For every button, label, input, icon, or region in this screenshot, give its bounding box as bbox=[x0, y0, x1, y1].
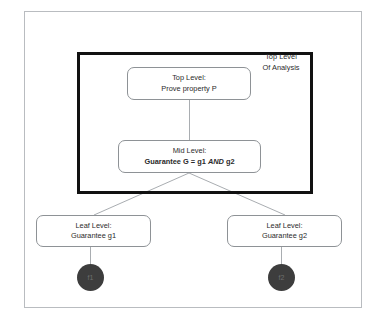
node-top-level-title: Top Level: bbox=[172, 73, 206, 83]
node-leaf-level-g2-title: Leaf Level: bbox=[266, 221, 302, 231]
node-mid-level-body-operator: AND bbox=[208, 157, 224, 166]
node-leaf-level-g2[interactable]: Leaf Level: Guarantee g2 bbox=[227, 215, 342, 247]
caption-line-2: Of Analysis bbox=[253, 63, 309, 74]
node-mid-level[interactable]: Mid Level: Guarantee G = g1 AND g2 bbox=[118, 140, 261, 173]
terminal-node-f1-label: f1 bbox=[87, 274, 93, 281]
node-top-level[interactable]: Top Level: Prove property P bbox=[127, 67, 251, 100]
caption-line-1: Top Level bbox=[253, 52, 309, 63]
node-mid-level-body-prefix: Guarantee G = g1 bbox=[144, 157, 207, 166]
node-mid-level-body: Guarantee G = g1 AND g2 bbox=[144, 157, 234, 167]
diagram-canvas: Top Level Of Analysis Top Level: Prove p… bbox=[0, 0, 381, 333]
top-level-of-analysis-caption: Top Level Of Analysis bbox=[253, 52, 309, 73]
node-leaf-level-g1-body: Guarantee g1 bbox=[71, 231, 116, 241]
connector-leaf1-to-terminal bbox=[90, 247, 91, 264]
node-leaf-level-g2-body: Guarantee g2 bbox=[262, 231, 307, 241]
node-leaf-level-g1-title: Leaf Level: bbox=[75, 221, 111, 231]
node-mid-level-title: Mid Level: bbox=[173, 146, 207, 156]
node-leaf-level-g1[interactable]: Leaf Level: Guarantee g1 bbox=[36, 215, 151, 247]
terminal-node-f2[interactable]: f2 bbox=[268, 264, 295, 291]
connector-top-to-mid bbox=[189, 100, 190, 140]
node-top-level-body: Prove property P bbox=[161, 84, 216, 94]
node-mid-level-body-suffix: g2 bbox=[224, 157, 235, 166]
connector-leaf2-to-terminal bbox=[281, 247, 282, 264]
terminal-node-f1[interactable]: f1 bbox=[77, 264, 104, 291]
terminal-node-f2-label: f2 bbox=[278, 274, 284, 281]
